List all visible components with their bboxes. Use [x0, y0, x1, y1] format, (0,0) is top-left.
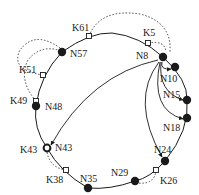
node-n8 — [159, 53, 167, 61]
label-n8: N8 — [136, 50, 148, 61]
label-n48: N48 — [45, 101, 62, 112]
label-n29: N29 — [111, 167, 128, 178]
label-n15: N15 — [163, 89, 180, 100]
node-n43 — [44, 145, 51, 152]
label-k5: K5 — [143, 27, 155, 38]
label-k38: K38 — [46, 174, 63, 185]
label-n18: N18 — [163, 122, 180, 133]
arc-k61-n8 — [89, 13, 170, 52]
label-k49: K49 — [10, 95, 27, 106]
label-k51: K51 — [19, 64, 36, 75]
node-n57 — [58, 48, 66, 56]
chord-ring-diagram: N8 N10 N15 N18 N24 N29 N35 N43 N48 N57 K… — [0, 0, 199, 195]
key-k61 — [87, 34, 92, 39]
node-n48 — [32, 102, 40, 110]
node-n24 — [161, 157, 169, 165]
label-n35: N35 — [80, 173, 97, 184]
node-n15 — [183, 96, 191, 104]
node-n35 — [84, 184, 92, 192]
key-k38 — [64, 168, 69, 173]
key-k51 — [41, 73, 46, 78]
label-n24: N24 — [154, 144, 171, 155]
label-k61: K61 — [72, 22, 89, 33]
label-k43: K43 — [20, 144, 37, 155]
finger-n8-n43 — [51, 60, 158, 145]
node-n29 — [131, 177, 139, 185]
node-n10 — [171, 63, 179, 71]
label-n57: N57 — [70, 48, 87, 59]
label-k26: K26 — [160, 175, 177, 186]
node-n18 — [183, 114, 191, 122]
label-n43: N43 — [55, 142, 72, 153]
key-k26 — [154, 168, 159, 173]
label-n10: N10 — [160, 73, 177, 84]
key-k5 — [146, 41, 151, 46]
key-successor-arcs — [18, 13, 170, 183]
